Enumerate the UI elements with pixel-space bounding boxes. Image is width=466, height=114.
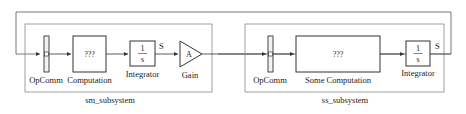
sm-computation-content: ??? (84, 50, 95, 59)
sm-computation-label: Computation (67, 75, 112, 85)
ss-some-computation-content: ??? (333, 50, 344, 59)
sm-integrator-label: Integrator (126, 69, 160, 79)
ss-subsystem[interactable]: OpComm ??? Some Computation 1 s Integrat… (245, 24, 444, 92)
ss-opcomm-block[interactable] (268, 36, 273, 72)
sm-integrator-denominator: s (141, 55, 144, 64)
ss-opcomm-label: OpComm (253, 75, 287, 85)
ss-integrator-label: Integrator (401, 68, 435, 78)
ss-integrator-denominator: s (416, 55, 419, 64)
sm-integrator-numerator: 1 (141, 44, 145, 53)
sm-opcomm-label: OpComm (29, 75, 63, 85)
ss-signal-s-label: S (435, 41, 440, 51)
sm-signal-s-label: S (159, 41, 164, 51)
sm-opcomm-block[interactable] (44, 36, 49, 72)
sm-gain-content: A (186, 50, 192, 59)
sm-gain-label: Gain (182, 70, 199, 80)
sm-subsystem-label: sm_subsystem (85, 95, 135, 105)
ss-some-computation-label: Some Computation (305, 75, 372, 85)
ss-integrator-numerator: 1 (416, 44, 420, 53)
simulink-diagram: OpComm ??? Computation 1 s Integrator S … (0, 0, 466, 114)
sm-subsystem[interactable]: OpComm ??? Computation 1 s Integrator S … (25, 24, 212, 92)
ss-subsystem-label: ss_subsystem (322, 95, 369, 105)
